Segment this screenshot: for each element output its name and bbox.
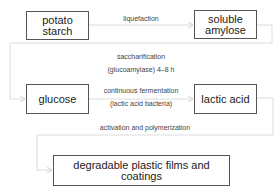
node-degradable-plastic: degradable plastic films and coatings [53, 155, 230, 186]
node-potato-starch: potato starch [26, 11, 89, 40]
node-label: lactic acid [201, 94, 249, 105]
node-label: degradable plastic films and coatings [54, 160, 229, 182]
edge-label-liquefaction: liquefaction [100, 15, 182, 23]
node-lactic-acid: lactic acid [194, 84, 257, 114]
edge-label-bacteria: (lactic acid bacteria) [96, 100, 186, 108]
edge-label-fermentation: continuous fermentation [96, 87, 186, 95]
node-glucose: glucose [26, 84, 89, 114]
node-label: amylose [205, 25, 246, 36]
edge-label-polymerization: activation and polymerization [90, 124, 200, 132]
edge-label-saccharification: saccharification [100, 53, 182, 61]
node-label: glucose [39, 94, 77, 105]
node-label: soluble [208, 14, 243, 25]
node-label: potato [42, 15, 73, 26]
edge-label-glucoamylase: (glucoamylase) 4–8 h [100, 66, 182, 74]
node-soluble-amylose: soluble amylose [194, 10, 257, 39]
node-label: starch [43, 26, 73, 37]
